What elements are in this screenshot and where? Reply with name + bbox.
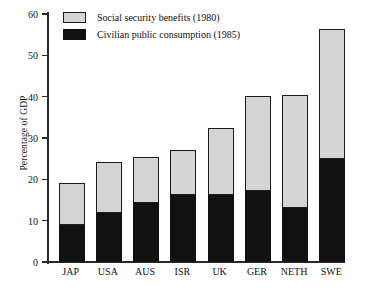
plot-area: 0102030405060 JAPUSAAUSISRUKGERNETHSWE (47, 14, 347, 262)
y-tick-10: 10 (42, 220, 47, 221)
legend-label-civilian-consumption: Civilian public consumption (1985) (97, 29, 240, 40)
y-tick-label: 60 (28, 9, 38, 20)
x-label-jap: JAP (52, 266, 89, 277)
y-tick-40: 40 (42, 96, 47, 97)
bar-segment-social-security-jap (59, 183, 85, 224)
bar-isr (170, 150, 196, 262)
bar-segment-civilian-consumption-aus (133, 203, 159, 262)
x-label-uk: UK (201, 266, 238, 277)
bar-segment-civilian-consumption-isr (170, 195, 196, 262)
x-label-aus: AUS (127, 266, 164, 277)
social-security-swatch-icon (63, 12, 86, 23)
bar-swe (319, 29, 345, 262)
bar-segment-social-security-ger (245, 96, 271, 191)
y-tick-label: 20 (28, 174, 38, 185)
bar-segment-social-security-isr (170, 150, 196, 196)
bar-segment-civilian-consumption-jap (59, 225, 85, 262)
bar-uk (208, 128, 234, 262)
y-tick-label: 0 (33, 257, 38, 268)
y-tick-label: 30 (28, 133, 38, 144)
x-label-neth: NETH (276, 266, 313, 277)
y-tick-label: 10 (28, 215, 38, 226)
civilian-consumption-swatch-icon (63, 29, 86, 40)
bar-segment-civilian-consumption-swe (319, 159, 345, 262)
bar-segment-civilian-consumption-uk (208, 195, 234, 262)
y-tick-label: 50 (28, 50, 38, 61)
bar-neth (282, 95, 308, 262)
bar-segment-social-security-swe (319, 29, 345, 158)
y-tick-50: 50 (42, 55, 47, 56)
legend-label-social-security: Social security benefits (1980) (97, 12, 219, 23)
stacked-bar-chart: Percentage of GDP 0102030405060 JAPUSAAU… (0, 0, 368, 293)
bar-ger (245, 96, 271, 262)
x-label-isr: ISR (164, 266, 201, 277)
bar-usa (96, 162, 122, 262)
bar-segment-civilian-consumption-usa (96, 213, 122, 262)
x-label-ger: GER (238, 266, 275, 277)
bar-group (48, 14, 346, 262)
bar-jap (59, 183, 85, 262)
bar-aus (133, 157, 159, 262)
bar-segment-social-security-neth (282, 95, 308, 209)
bar-segment-civilian-consumption-neth (282, 208, 308, 262)
x-label-usa: USA (89, 266, 126, 277)
y-tick-20: 20 (42, 179, 47, 180)
y-tick-60: 60 (42, 13, 47, 14)
y-tick-label: 40 (28, 91, 38, 102)
bar-segment-civilian-consumption-ger (245, 191, 271, 262)
x-label-swe: SWE (313, 266, 350, 277)
bar-segment-social-security-usa (96, 162, 122, 213)
legend-item-civilian-consumption: Civilian public consumption (1985) (63, 26, 240, 43)
bar-segment-social-security-uk (208, 128, 234, 196)
y-tick-30: 30 (42, 137, 47, 138)
bar-segment-social-security-aus (133, 157, 159, 203)
legend-item-social-security: Social security benefits (1980) (63, 9, 240, 26)
y-tick-0: 0 (42, 261, 47, 262)
chart-legend: Social security benefits (1980) Civilian… (63, 9, 240, 43)
